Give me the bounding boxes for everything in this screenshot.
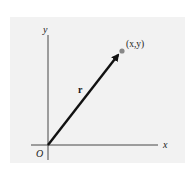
point-label: (x,y) [126, 39, 144, 50]
x-axis-label: x [162, 139, 168, 150]
background-panel [10, 17, 185, 163]
origin-label: O [36, 148, 43, 159]
point-xy [119, 48, 124, 53]
y-axis-label: y [42, 24, 48, 35]
vector-label: r [78, 84, 83, 95]
position-vector-diagram: y x O r (x,y) [0, 0, 191, 175]
